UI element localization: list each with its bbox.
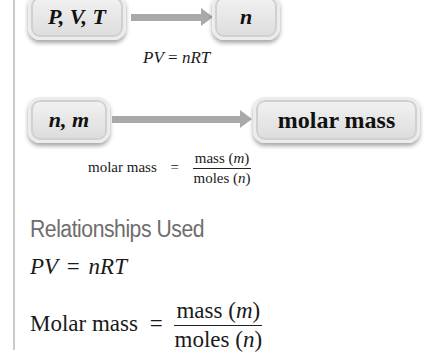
arrow-pvt-to-n <box>131 14 201 21</box>
box-n-label: n <box>240 4 252 30</box>
box-molar-mass-label: molar mass <box>278 107 396 134</box>
relationship-molar-mass: Molar mass = mass (m) moles (n) <box>30 298 262 353</box>
margin-rule <box>13 0 15 350</box>
molar-mass-caption: molar mass = mass (m) moles (n) <box>88 150 251 187</box>
box-n: n <box>212 0 280 40</box>
relationships-heading: Relationships Used <box>30 216 204 243</box>
box-pvt-label: P, V, T <box>48 4 106 30</box>
box-nm-label: n, m <box>49 107 89 133</box>
ideal-gas-caption: PV = nRT <box>143 48 210 68</box>
molar-mass-fraction: mass (m) moles (n) <box>193 150 252 187</box>
box-pvt: P, V, T <box>28 0 126 40</box>
box-nm: n, m <box>28 97 110 143</box>
arrow-nm-to-molar-mass <box>112 116 240 123</box>
relationship-ideal-gas: PV = nRT <box>30 254 127 280</box>
box-molar-mass: molar mass <box>253 97 420 143</box>
relationship-molar-mass-fraction: mass (m) moles (n) <box>174 298 262 353</box>
